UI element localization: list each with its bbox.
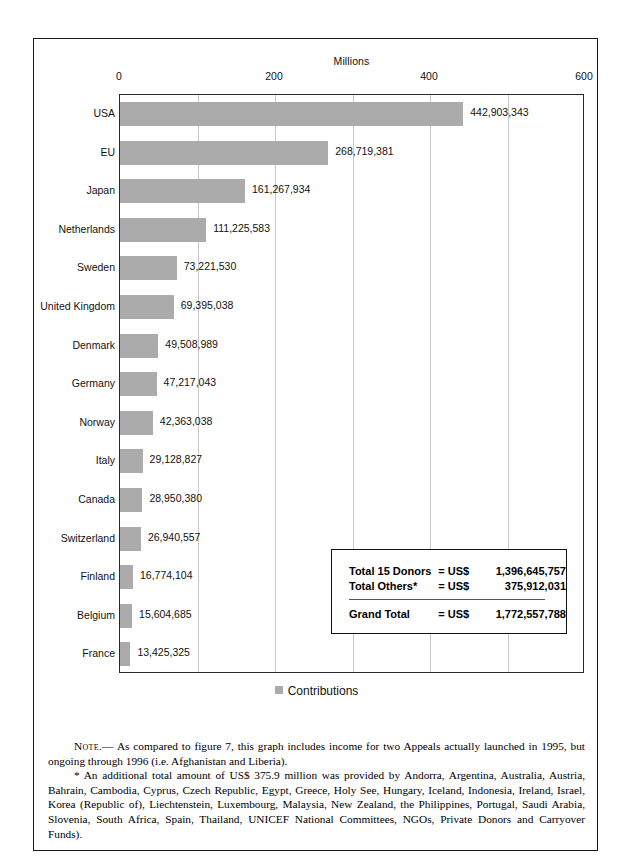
note-paragraph-2: * An additional total amount of US$ 375.…: [48, 768, 585, 841]
note-lead: Note.—: [74, 740, 114, 752]
totals-donors-label: Total 15 Donors: [349, 564, 438, 579]
bar-row: 268,719,381: [120, 134, 583, 173]
bar-row: 13,425,325: [120, 635, 583, 674]
bar-value-label: 268,719,381: [335, 145, 393, 157]
bar-united-kingdom: [120, 295, 174, 319]
category-label-japan: Japan: [86, 171, 115, 210]
bar-canada: [120, 488, 142, 512]
bar-denmark: [120, 334, 158, 358]
bar-row: 42,363,038: [120, 404, 583, 443]
bar-value-label: 16,774,104: [140, 569, 193, 581]
category-label-usa: USA: [93, 94, 115, 133]
category-label-denmark: Denmark: [72, 326, 115, 365]
totals-row-grand: Grand Total = US$ 1,772,557,788: [349, 607, 566, 622]
bar-row: 49,508,989: [120, 327, 583, 366]
x-tick-200: 200: [265, 70, 283, 82]
figure-note: Note.— As compared to figure 7, this gra…: [34, 739, 599, 841]
bar-germany: [120, 372, 157, 396]
bar-value-label: 161,267,934: [252, 183, 310, 195]
category-label-netherlands: Netherlands: [58, 210, 115, 249]
bar-value-label: 13,425,325: [137, 646, 190, 658]
category-label-norway: Norway: [79, 403, 115, 442]
bar-row: 442,903,343: [120, 95, 583, 134]
category-label-canada: Canada: [78, 480, 115, 519]
bar-value-label: 49,508,989: [165, 338, 218, 350]
note-text-1: As compared to figure 7, this graph incl…: [48, 740, 585, 767]
x-tick-600: 600: [575, 70, 593, 82]
x-tick-400: 400: [420, 70, 438, 82]
bar-sweden: [120, 256, 177, 280]
bar-value-label: 73,221,530: [184, 260, 237, 272]
category-label-switzerland: Switzerland: [61, 519, 115, 558]
figure-page-frame: Millions 0200400600 442,903,343268,719,3…: [33, 38, 598, 851]
bar-value-label: 69,395,038: [181, 299, 234, 311]
bar-row: 73,221,530: [120, 249, 583, 288]
bar-value-label: 29,128,827: [150, 453, 203, 465]
bar-netherlands: [120, 218, 206, 242]
category-label-finland: Finland: [81, 557, 115, 596]
bar-row: 47,217,043: [120, 365, 583, 404]
category-label-sweden: Sweden: [77, 248, 115, 287]
bar-row: 111,225,583: [120, 211, 583, 250]
category-label-belgium: Belgium: [77, 596, 115, 635]
totals-row-donors: Total 15 Donors = US$ 1,396,645,757: [349, 564, 566, 579]
bar-row: 69,395,038: [120, 288, 583, 327]
bar-row: 29,128,827: [120, 442, 583, 481]
bar-value-label: 15,604,685: [139, 608, 192, 620]
bar-value-label: 26,940,557: [148, 531, 201, 543]
totals-donors-value: 1,396,645,757: [474, 564, 566, 579]
bar-switzerland: [120, 527, 141, 551]
totals-grand-value: 1,772,557,788: [474, 607, 566, 622]
category-label-italy: Italy: [96, 441, 115, 480]
totals-grand-label: Grand Total: [349, 607, 438, 622]
bar-finland: [120, 565, 133, 589]
totals-others-value: 375,912,031: [474, 579, 566, 594]
category-label-united-kingdom: United Kingdom: [40, 287, 115, 326]
bar-value-label: 442,903,343: [470, 106, 528, 118]
bar-italy: [120, 449, 143, 473]
bar-row: 161,267,934: [120, 172, 583, 211]
bar-value-label: 47,217,043: [164, 376, 217, 388]
category-label-france: France: [82, 634, 115, 673]
totals-others-label: Total Others*: [349, 579, 438, 594]
bar-norway: [120, 411, 153, 435]
bar-eu: [120, 141, 328, 165]
bar-japan: [120, 179, 245, 203]
note-paragraph-1: Note.— As compared to figure 7, this gra…: [48, 739, 585, 768]
chart-legend: Contributions: [34, 684, 599, 698]
totals-separator-rule: [349, 599, 545, 600]
totals-others-eq: = US$: [438, 579, 474, 594]
bar-france: [120, 642, 130, 666]
bar-value-label: 42,363,038: [160, 415, 213, 427]
bar-value-label: 28,950,380: [149, 492, 202, 504]
legend-label: Contributions: [288, 684, 359, 698]
category-label-germany: Germany: [72, 364, 115, 403]
legend-swatch-icon: [275, 686, 283, 694]
bar-usa: [120, 102, 463, 126]
bar-chart: Millions 0200400600 442,903,343268,719,3…: [34, 39, 599, 669]
category-label-eu: EU: [100, 133, 115, 172]
totals-grand-eq: = US$: [438, 607, 474, 622]
bar-value-label: 111,225,583: [213, 222, 270, 234]
totals-donors-eq: = US$: [438, 564, 474, 579]
bar-belgium: [120, 604, 132, 628]
x-axis-tick-labels: 0200400600: [34, 70, 599, 84]
totals-summary-box: Total 15 Donors = US$ 1,396,645,757 Tota…: [331, 549, 567, 634]
totals-row-others: Total Others* = US$ 375,912,031: [349, 579, 566, 594]
bar-row: 28,950,380: [120, 481, 583, 520]
x-tick-0: 0: [116, 70, 122, 82]
axis-title-millions: Millions: [119, 55, 584, 67]
